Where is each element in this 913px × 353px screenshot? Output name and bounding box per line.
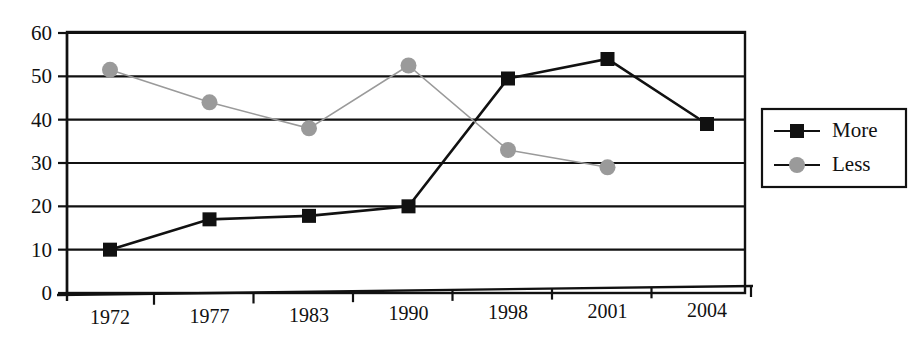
line-chart: 6050403020100 19721977198319901998200120…	[0, 0, 913, 353]
data-point-more-2	[302, 209, 316, 223]
x-tick-label: 1998	[488, 301, 528, 323]
legend-marker-less	[789, 157, 805, 173]
data-point-more-0	[103, 243, 117, 257]
x-tick-label: 1972	[90, 306, 130, 328]
series-line-less	[110, 66, 608, 168]
y-tick-label: 20	[31, 194, 52, 218]
y-tick-label: 30	[31, 151, 52, 175]
data-point-more-1	[203, 212, 217, 226]
x-tick-label: 2004	[687, 299, 727, 321]
y-tick-label: 0	[42, 281, 53, 305]
data-point-less-3	[401, 58, 417, 74]
y-axis	[58, 33, 67, 301]
chart-canvas: 6050403020100 19721977198319901998200120…	[0, 0, 913, 353]
series-less	[102, 58, 616, 176]
data-point-less-4	[500, 142, 516, 158]
x-tick-label: 1990	[389, 302, 429, 324]
data-point-more-4	[501, 72, 515, 86]
y-axis-tick-labels: 6050403020100	[31, 21, 52, 305]
y-tick-label: 10	[31, 238, 52, 262]
data-point-less-0	[102, 62, 118, 78]
data-point-less-5	[600, 159, 616, 175]
x-tick-label: 2001	[588, 300, 628, 322]
legend-marker-more	[790, 124, 804, 138]
data-point-more-6	[700, 117, 714, 131]
legend-label-less: Less	[832, 152, 871, 176]
series-more	[103, 52, 714, 257]
data-point-less-2	[301, 120, 317, 136]
y-tick-label: 50	[31, 64, 52, 88]
x-axis-tick-labels: 1972197719831990199820012004	[90, 299, 727, 329]
data-series-layer	[102, 52, 714, 257]
y-tick-label: 60	[31, 21, 52, 45]
y-tick-label: 40	[31, 108, 52, 132]
data-point-more-3	[402, 199, 416, 213]
data-point-more-5	[601, 52, 615, 66]
chart-legend: MoreLess	[762, 109, 906, 187]
data-point-less-1	[202, 94, 218, 110]
x-tick-label: 1977	[190, 305, 230, 327]
x-tick-label: 1983	[289, 304, 329, 326]
legend-label-more: More	[832, 118, 878, 142]
series-line-more	[110, 59, 707, 250]
